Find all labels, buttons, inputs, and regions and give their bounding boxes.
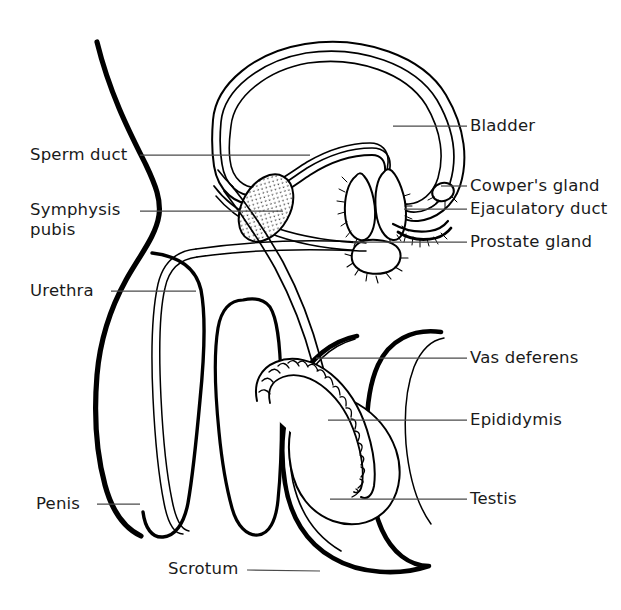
label-ejaculatory-duct: Ejaculatory duct (470, 199, 607, 219)
diagram-page: Sperm duct Symphysispubis Urethra Penis … (0, 0, 621, 610)
label-testis: Testis (470, 489, 517, 509)
seminal-vesicle-left-lobe (337, 173, 375, 247)
label-urethra: Urethra (30, 281, 94, 301)
scrotum-inner-lining (405, 338, 444, 524)
label-bladder: Bladder (470, 116, 535, 136)
leader-scrotum (247, 570, 320, 571)
abdominal-wall-outline (96, 42, 160, 536)
prostate-gland (345, 240, 408, 283)
male-reproductive-system-diagram (0, 0, 621, 610)
penis-shaft-inner (215, 299, 281, 535)
label-prostate-gland: Prostate gland (470, 232, 592, 252)
label-symphysis-pubis: Symphysispubis (30, 200, 121, 240)
label-epididymis: Epididymis (470, 410, 562, 430)
label-symphysis-pubis-line2: pubis (30, 220, 76, 239)
urethra-proximal-b (197, 250, 366, 257)
cowpers-gland (428, 180, 457, 208)
label-cowpers-gland: Cowper's gland (470, 176, 600, 196)
label-symphysis-pubis-line1: Symphysis (30, 200, 121, 219)
label-vas-deferens: Vas deferens (470, 348, 579, 368)
label-penis: Penis (36, 494, 80, 514)
label-sperm-duct: Sperm duct (30, 145, 127, 165)
label-scrotum: Scrotum (168, 559, 238, 579)
